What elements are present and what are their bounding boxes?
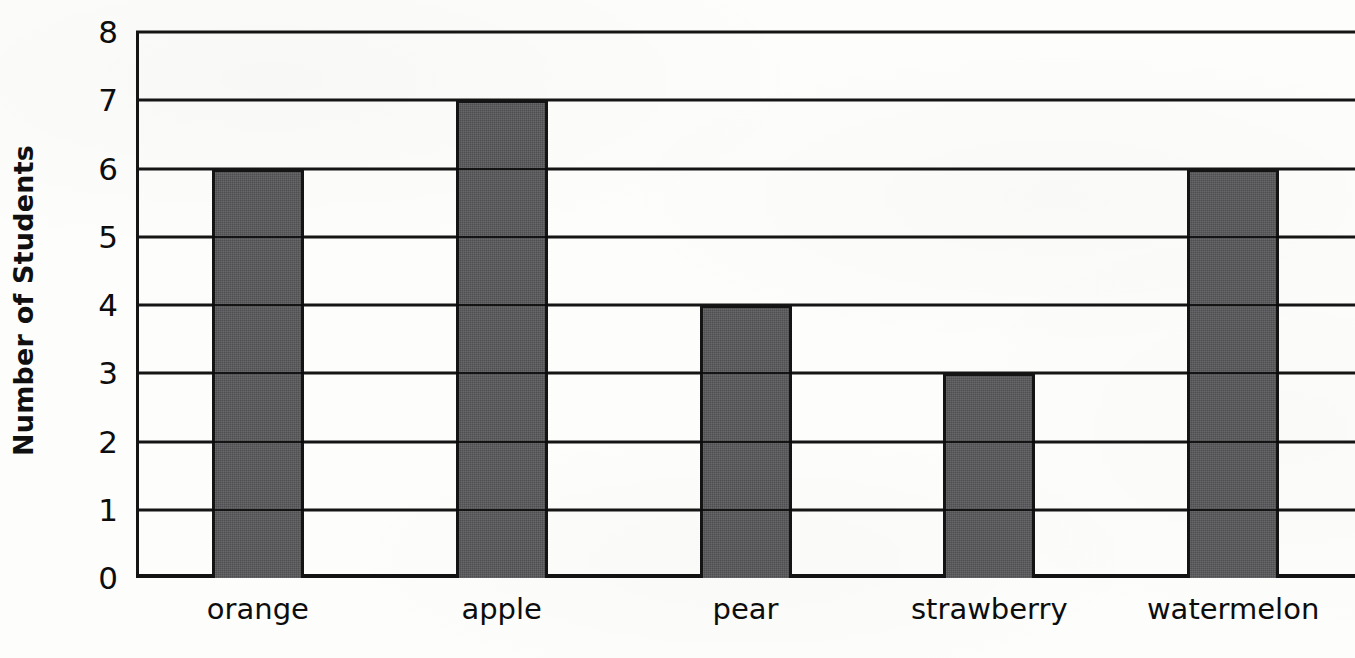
y-tick-label: 1 [78, 494, 118, 525]
x-tick-label: pear [713, 594, 779, 626]
y-tick-label: 4 [78, 290, 118, 321]
gridline [136, 235, 1355, 238]
bar-gridline [700, 509, 792, 511]
bar-gridline [456, 372, 548, 374]
bar-gridline [456, 236, 548, 238]
bar-gridline [212, 236, 304, 238]
bar-gridline [1187, 509, 1279, 511]
y-tick-label: 6 [78, 153, 118, 184]
bar-gridline [1187, 441, 1279, 443]
y-tick-label: 7 [78, 85, 118, 116]
bar-gridline [943, 509, 1035, 511]
x-tick-label: apple [461, 594, 542, 626]
bar-gridline [212, 509, 304, 511]
y-tick-label: 0 [78, 563, 118, 594]
bar-gridline [943, 441, 1035, 443]
bar-gridline [700, 441, 792, 443]
y-tick-label: 3 [78, 358, 118, 389]
bar-gridline [1187, 304, 1279, 306]
bar-gridline [212, 441, 304, 443]
bar-gridline [700, 372, 792, 374]
bar-gridline [456, 509, 548, 511]
x-tick-label: watermelon [1147, 594, 1319, 626]
gridline [136, 167, 1355, 170]
gridline [136, 31, 1355, 34]
bar-gridline [456, 304, 548, 306]
y-axis-title-text: Number of Students [8, 144, 39, 455]
bar-gridline [1187, 236, 1279, 238]
y-tick-label: 8 [78, 17, 118, 48]
bar-gridline [456, 168, 548, 170]
x-tick-label: strawberry [911, 594, 1068, 626]
y-tick-label: 2 [78, 426, 118, 457]
y-axis-tick-labels: 012345678 [56, 0, 118, 658]
bar-gridline [212, 372, 304, 374]
x-axis-tick-labels: orangeapplepearstrawberrywatermelon [136, 594, 1355, 654]
bar-gridline [1187, 372, 1279, 374]
y-axis-title: Number of Students [0, 0, 46, 600]
bar-gridline [212, 304, 304, 306]
plot-area [136, 32, 1355, 578]
y-tick-label: 5 [78, 221, 118, 252]
gridline [136, 99, 1355, 102]
chart-page: Number of Students 012345678 orangeapple… [0, 0, 1355, 658]
bar [456, 100, 548, 578]
bar [943, 373, 1035, 578]
bar-gridline [456, 441, 548, 443]
x-tick-label: orange [207, 594, 309, 626]
